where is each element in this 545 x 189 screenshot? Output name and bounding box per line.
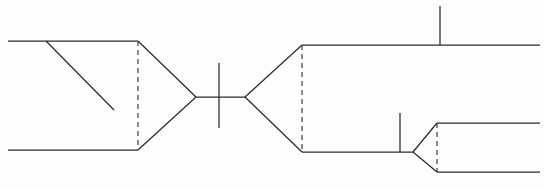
right-funnel-upper	[245, 45, 302, 97]
line-diagram-canvas	[0, 0, 545, 189]
branch-lower	[413, 152, 437, 172]
tick-mark-layer	[219, 6, 440, 152]
left-funnel-upper	[138, 41, 196, 97]
diagram-root	[0, 0, 545, 189]
branch-upper	[413, 123, 437, 152]
right-funnel-lower	[245, 97, 302, 152]
left-diagonal-stub	[46, 41, 114, 110]
left-funnel-lower	[138, 97, 196, 150]
solid-line-layer	[8, 41, 540, 172]
